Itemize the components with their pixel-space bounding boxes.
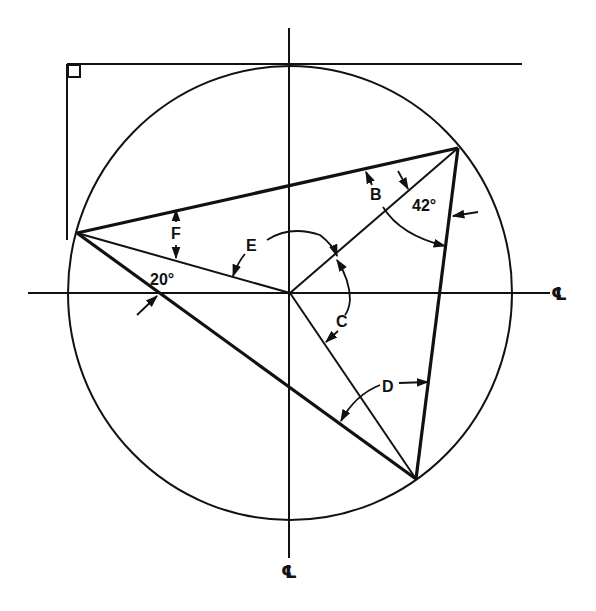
angle-c-arc	[337, 260, 350, 315]
centerline-symbol-horizontal: ℄	[551, 284, 567, 304]
angle-b-arrow-down	[398, 171, 408, 189]
triangle-side-top	[77, 148, 458, 233]
radius-to-left-vertex	[77, 233, 290, 293]
angle-e-arc	[267, 231, 337, 256]
geometry-diagram: B 42° C D E F 20° ℄ ℄	[0, 0, 596, 611]
label-b: B	[370, 186, 382, 203]
label-c: C	[336, 313, 348, 330]
angle-d-arrow	[399, 382, 428, 383]
right-angle-marker	[68, 65, 80, 77]
centerline-symbol-vertical: ℄	[281, 562, 297, 582]
diagram-canvas: B 42° C D E F 20° ℄ ℄	[0, 0, 596, 611]
angle-c-leader	[326, 331, 338, 342]
label-e: E	[246, 237, 257, 254]
radius-to-bottom-vertex	[290, 293, 416, 479]
angle-20-arrow	[137, 296, 157, 315]
angle-42-arrow	[453, 212, 478, 216]
radius-to-top-right-vertex	[290, 148, 458, 293]
label-42-degrees: 42°	[412, 197, 436, 214]
triangle-side-left	[77, 233, 416, 479]
label-d: D	[382, 378, 394, 395]
angle-e-leader	[233, 254, 245, 276]
label-f: F	[171, 225, 181, 242]
label-20-degrees: 20°	[150, 271, 174, 288]
angle-b-arrow-up	[366, 172, 372, 185]
